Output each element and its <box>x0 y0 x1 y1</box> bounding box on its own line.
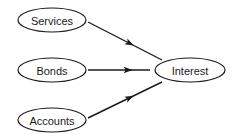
edge-line <box>88 82 162 118</box>
node-services[interactable]: Services <box>18 8 86 32</box>
edge-services-to-interest <box>88 22 162 60</box>
node-label: Accounts <box>29 115 75 127</box>
edge-line <box>88 22 162 60</box>
node-interest[interactable]: Interest <box>155 58 225 82</box>
edge-accounts-to-interest <box>88 82 162 118</box>
edges-group <box>88 22 162 118</box>
node-label: Interest <box>172 65 209 77</box>
diagram-canvas: Services Bonds Accounts Interest <box>0 0 244 140</box>
node-label: Services <box>31 15 74 27</box>
node-bonds[interactable]: Bonds <box>18 58 86 82</box>
node-label: Bonds <box>36 65 68 77</box>
edge-bonds-to-interest <box>88 67 150 73</box>
node-accounts[interactable]: Accounts <box>18 108 86 132</box>
